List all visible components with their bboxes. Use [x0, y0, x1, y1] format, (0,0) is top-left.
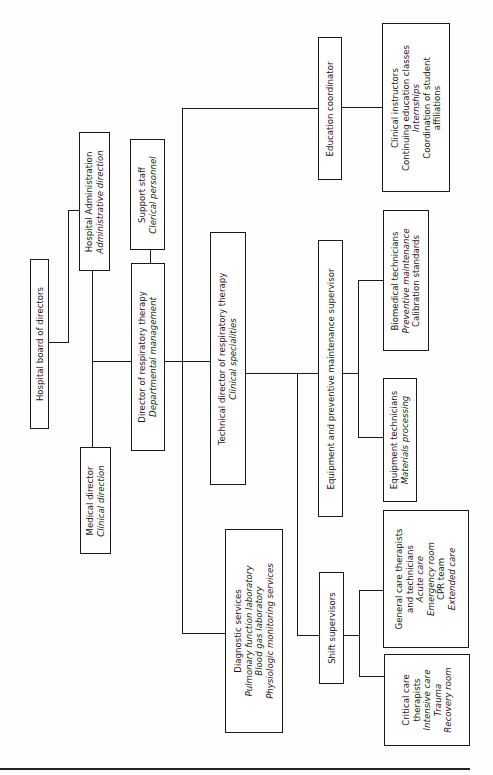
node-detail: affiliations: [432, 45, 443, 171]
node-detail: Preventive maintenance: [401, 228, 412, 333]
node-title-2: and technicians: [405, 528, 416, 629]
node-support-staff: Support staff Clerical personnel: [130, 139, 165, 250]
node-title: Medical director: [85, 465, 96, 537]
connector: [68, 210, 69, 343]
connector: [358, 280, 383, 281]
node-detail: Materials processing: [400, 391, 411, 489]
node-detail: Administrative direction: [95, 150, 106, 253]
node-clinical-instructors: Clinical instructors Continuing educatio…: [382, 23, 450, 192]
connector: [341, 107, 382, 108]
node-detail: CPR team: [437, 528, 448, 629]
node-detail: Pulmonary function laboratory: [243, 563, 254, 699]
bottom-divider: [0, 768, 470, 770]
node-title: Critical care: [401, 667, 412, 732]
node-detail: Emergency room: [426, 528, 437, 629]
connector: [182, 108, 183, 634]
node-detail: Internships: [411, 45, 422, 171]
node-title: Hospital Administration: [84, 150, 95, 253]
node-title: Technical director of respiratory therap…: [217, 272, 228, 444]
node-detail: Clinical direction: [96, 465, 107, 537]
node-medical-director: Medical director Clinical direction: [80, 447, 111, 554]
connector: [358, 437, 383, 438]
node-hospital-board: Hospital board of directors: [30, 259, 49, 429]
node-title: Equipment technicians: [389, 391, 400, 489]
node-title: Biomedical technicians: [390, 228, 401, 333]
node-detail: Coordination of student: [421, 45, 432, 171]
node-detail: Physiologic monitoring services: [265, 563, 276, 699]
node-title: Shift supervisors: [326, 592, 337, 664]
node-title: General care therapists: [394, 528, 405, 629]
connector: [245, 373, 318, 374]
node-detail: Extended care: [447, 528, 458, 629]
connector: [182, 108, 318, 109]
connector: [297, 373, 298, 636]
node-title: Education coordinator: [325, 61, 336, 156]
node-title-2: therapists: [411, 667, 422, 732]
node-diagnostic-services: Diagnostic services Pulmonary function l…: [225, 529, 283, 733]
node-detail: Acute care: [415, 528, 426, 629]
node-hospital-administration: Hospital Administration Administrative d…: [79, 132, 110, 271]
node-detail: Recovery room: [443, 667, 454, 732]
connector: [359, 676, 384, 677]
node-detail: Clinical specialities: [228, 272, 239, 444]
node-detail: Blood gas laboratory: [254, 563, 265, 699]
node-title: Director of respiratory therapy: [137, 291, 148, 422]
node-critical-care-therapists: Critical care therapists Intensive care …: [384, 654, 470, 746]
connector: [343, 635, 360, 636]
connector: [182, 633, 225, 634]
node-equipment-supervisor: Equipment and preventive maintenance sup…: [318, 240, 343, 517]
node-biomedical-technicians: Biomedical technicians Preventive mainte…: [383, 210, 429, 351]
node-equipment-technicians: Equipment technicians Materials processi…: [383, 378, 417, 502]
connector: [359, 590, 360, 677]
org-chart: Hospital board of directors Hospital Adm…: [0, 0, 493, 775]
connector: [68, 210, 79, 211]
node-general-care-therapists: General care therapists and technicians …: [383, 510, 469, 648]
connector: [342, 373, 359, 374]
connector: [358, 280, 359, 438]
connector: [48, 342, 69, 343]
node-title: Support staff: [137, 156, 148, 233]
node-technical-director: Technical director of respiratory therap…: [210, 232, 246, 485]
node-director-respiratory-therapy: Director of respiratory therapy Departme…: [131, 263, 165, 451]
node-detail: Trauma: [432, 667, 443, 732]
node-shift-supervisors: Shift supervisors: [319, 572, 344, 684]
node-detail: Continuing education classes: [400, 45, 411, 171]
connector: [164, 361, 210, 362]
node-title: Hospital board of directors: [34, 287, 45, 401]
node-detail: Clerical personnel: [148, 156, 159, 233]
node-title: Equipment and preventive maintenance sup…: [325, 268, 336, 489]
connector: [150, 249, 151, 263]
node-education-coordinator: Education coordinator: [318, 37, 342, 180]
node-title: Clinical instructors: [390, 45, 401, 171]
node-detail: Intensive care: [422, 667, 433, 732]
node-detail: Calibration standards: [411, 228, 422, 333]
node-title: Diagnostic services: [233, 563, 244, 699]
connector: [92, 361, 131, 362]
connector: [359, 590, 383, 591]
connector: [92, 270, 93, 447]
connector: [297, 635, 319, 636]
node-detail: Departmental management: [148, 291, 159, 422]
